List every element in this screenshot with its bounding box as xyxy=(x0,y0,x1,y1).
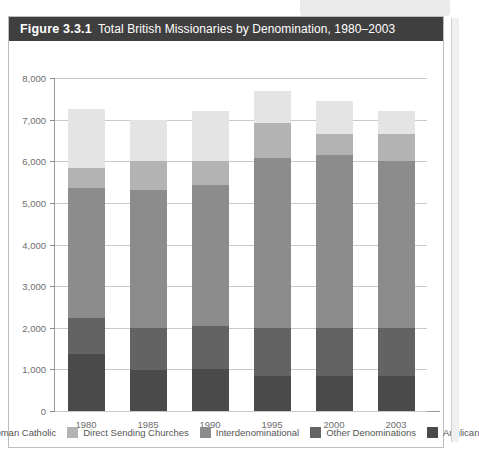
y-axis-tick xyxy=(50,411,55,412)
legend-swatch-icon xyxy=(310,427,321,438)
legend-item[interactable]: Interdenominational xyxy=(200,427,299,438)
bar-segment xyxy=(378,134,415,161)
gridline xyxy=(55,78,427,79)
legend-swatch-icon xyxy=(200,427,211,438)
legend-label: Roman Catholic xyxy=(0,427,56,438)
bar-segment xyxy=(130,370,167,411)
chart-legend: Roman CatholicDirect Sending ChurchesInt… xyxy=(9,427,443,438)
print-artifact xyxy=(300,0,450,16)
legend-item[interactable]: Other Denominations xyxy=(310,427,416,438)
bar-2000[interactable]: 2000 xyxy=(316,101,353,411)
legend-item[interactable]: Roman Catholic xyxy=(0,427,56,438)
gridline xyxy=(55,245,427,246)
gridline xyxy=(55,120,427,121)
bar-segment xyxy=(254,328,291,376)
legend-label: Direct Sending Churches xyxy=(83,427,189,438)
plot-area: 01,0002,0003,0004,0005,0006,0007,0008,00… xyxy=(55,78,427,411)
legend-swatch-icon xyxy=(67,427,78,438)
y-axis-tick xyxy=(50,369,55,370)
y-axis-label: 3,000 xyxy=(22,281,46,292)
legend-label: Interdenominational xyxy=(216,427,299,438)
bar-segment xyxy=(378,328,415,376)
bar-segment xyxy=(192,161,229,184)
legend-swatch-icon xyxy=(427,427,438,438)
y-axis-label: 8,000 xyxy=(22,73,46,84)
bar-segment xyxy=(254,158,291,328)
page-top-bleed xyxy=(0,0,459,16)
bar-1980[interactable]: 1980 xyxy=(68,109,105,411)
y-axis-label: 2,000 xyxy=(22,322,46,333)
figure-container: Figure 3.3.1 Total British Missionaries … xyxy=(8,16,444,448)
bar-segment xyxy=(192,185,229,326)
bar-1990[interactable]: 1990 xyxy=(192,111,229,411)
y-axis-tick xyxy=(50,120,55,121)
bar-segment xyxy=(130,120,167,162)
y-axis-tick xyxy=(50,203,55,204)
bar-segment xyxy=(316,376,353,411)
y-axis-tick xyxy=(50,286,55,287)
bar-segment xyxy=(68,188,105,317)
y-axis-tick xyxy=(50,161,55,162)
bar-1985[interactable]: 1985 xyxy=(130,120,167,411)
bar-1995[interactable]: 1995 xyxy=(254,91,291,411)
y-axis-label: 0 xyxy=(41,406,46,417)
bar-segment xyxy=(378,161,415,328)
bar-segment xyxy=(68,318,105,354)
gridline xyxy=(55,203,427,204)
bar-segment xyxy=(316,101,353,134)
y-axis-tick xyxy=(50,328,55,329)
bar-segment xyxy=(130,190,167,329)
bar-segment xyxy=(254,376,291,411)
gridline xyxy=(55,369,427,370)
page-edge xyxy=(451,18,459,442)
bar-segment xyxy=(378,376,415,411)
bar-segment xyxy=(68,168,105,189)
y-axis-label: 7,000 xyxy=(22,114,46,125)
bar-segment xyxy=(130,328,167,370)
figure-number: Figure 3.3.1 xyxy=(20,22,92,36)
bar-segment xyxy=(316,328,353,376)
gridline xyxy=(55,328,427,329)
legend-label: Anglican xyxy=(443,427,479,438)
y-axis-label: 4,000 xyxy=(22,239,46,250)
bar-segment xyxy=(378,111,415,133)
y-axis-label: 1,000 xyxy=(22,364,46,375)
bar-segment xyxy=(254,123,291,158)
bar-segment xyxy=(316,134,353,155)
figure-title: Total British Missionaries by Denominati… xyxy=(98,22,395,36)
y-axis-tick xyxy=(50,78,55,79)
bar-2003[interactable]: 2003 xyxy=(378,111,415,411)
gridline xyxy=(55,411,427,412)
y-axis-label: 6,000 xyxy=(22,156,46,167)
gridline xyxy=(55,161,427,162)
y-axis-tick xyxy=(50,245,55,246)
bar-segment xyxy=(192,369,229,411)
bar-segment xyxy=(316,155,353,328)
bar-segment xyxy=(192,326,229,370)
bar-segment xyxy=(68,109,105,167)
plot-wrapper: 01,0002,0003,0004,0005,0006,0007,0008,00… xyxy=(9,41,443,449)
bar-segment xyxy=(68,354,105,411)
bar-segment xyxy=(254,91,291,123)
y-axis-label: 5,000 xyxy=(22,197,46,208)
gridline xyxy=(55,286,427,287)
bar-segment xyxy=(130,161,167,189)
bar-segment xyxy=(192,111,229,161)
figure-title-bar: Figure 3.3.1 Total British Missionaries … xyxy=(9,17,443,41)
legend-label: Other Denominations xyxy=(326,427,416,438)
legend-item[interactable]: Direct Sending Churches xyxy=(67,427,189,438)
